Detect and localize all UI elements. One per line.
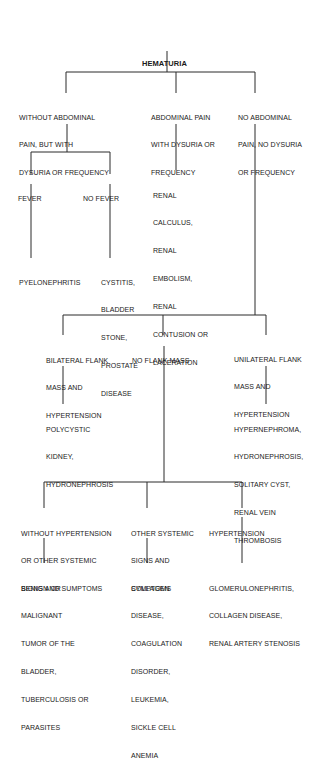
node-line: RENAL ARTERY STENOSIS <box>209 639 300 648</box>
result-pyelonephritis: PYELONEPHRITIS <box>19 259 80 305</box>
node-line: RENAL <box>153 302 208 311</box>
node-no-flank-mass: NO FLANK MASS <box>132 337 189 383</box>
node-line: RENAL <box>153 191 208 200</box>
node-line: LEUKEMIA, <box>131 695 182 704</box>
node-line: WITHOUT ABDOMINAL <box>19 113 109 122</box>
node-line: ANEMIA <box>131 751 182 760</box>
root-hematuria: HEMATURIA <box>142 40 187 86</box>
node-line: BILATERAL FLANK <box>46 356 108 365</box>
result-collagen-disease: COLLAGEN DISEASE, COAGULATION DISORDER, … <box>131 565 182 762</box>
node-line: CALCULUS, <box>153 218 208 227</box>
node-line: OTHER SYSTEMIC <box>131 529 194 538</box>
node-line: FEVER <box>18 194 42 203</box>
node-line: PARASITES <box>21 723 89 732</box>
result-glomerulonephritis: GLOMERULONEPHRITIS, COLLAGEN DISEASE, RE… <box>209 565 300 667</box>
node-line: MASS AND <box>234 382 302 391</box>
node-line: PYELONEPHRITIS <box>19 278 80 287</box>
node-line: HYDRONEPHROSIS, <box>234 452 303 461</box>
node-line: DISEASE, <box>131 611 182 620</box>
node-line: DISORDER, <box>131 667 182 676</box>
node-line: ABDOMINAL PAIN <box>151 113 215 122</box>
node-line: MASS AND <box>46 383 108 392</box>
node-line: NO FLANK MASS <box>132 356 189 365</box>
node-line: SICKLE CELL <box>131 723 182 732</box>
node-line: EMBOLISM, <box>153 274 208 283</box>
node-line: POLYCYSTIC <box>46 425 113 434</box>
node-line: RENAL <box>153 246 208 255</box>
node-line: COLLAGEN DISEASE, <box>209 611 300 620</box>
node-line: WITHOUT HYPERTENSION <box>21 529 112 538</box>
node-line: OR FREQUENCY <box>238 168 302 177</box>
node-line: HYPERTENSION <box>209 529 265 538</box>
node-line: MALIGNANT <box>21 611 89 620</box>
node-hypertension: HYPERTENSION <box>209 510 265 556</box>
node-no-abdominal-pain: NO ABDOMINAL PAIN, NO DYSURIA OR FREQUEN… <box>238 94 302 196</box>
result-polycystic-kidney: POLYCYSTIC KIDNEY, HYDRONEPHROSIS <box>46 406 113 508</box>
node-line: TUBERCULOSIS OR <box>21 695 89 704</box>
node-line: BLADDER <box>101 305 138 314</box>
node-line: NO ABDOMINAL <box>238 113 302 122</box>
node-line: COAGULATION <box>131 639 182 648</box>
node-line: COLLAGEN <box>131 584 182 593</box>
node-line: UNILATERAL FLANK <box>234 355 302 364</box>
node-line: HYPERNEPHROMA, <box>234 425 303 434</box>
node-no-fever: NO FEVER <box>83 175 119 221</box>
node-fever: FEVER <box>18 175 42 221</box>
node-line: PAIN, BUT WITH <box>19 140 109 149</box>
node-line: PAIN, NO DYSURIA <box>238 140 302 149</box>
node-line: BLADDER, <box>21 667 89 676</box>
root-label: HEMATURIA <box>142 59 187 68</box>
node-line: TUMOR OF THE <box>21 639 89 648</box>
node-line: GLOMERULONEPHRITIS, <box>209 584 300 593</box>
node-line: NO FEVER <box>83 194 119 203</box>
node-line: SOLITARY CYST, <box>234 480 303 489</box>
node-line: CYSTITIS, <box>101 278 138 287</box>
node-line: KIDNEY, <box>46 452 113 461</box>
node-line: HYDRONEPHROSIS <box>46 480 113 489</box>
node-line: BENIGN OR <box>21 584 89 593</box>
result-bladder-tumor: BENIGN OR MALIGNANT TUMOR OF THE BLADDER… <box>21 565 89 751</box>
node-line: WITH DYSURIA OR <box>151 140 215 149</box>
